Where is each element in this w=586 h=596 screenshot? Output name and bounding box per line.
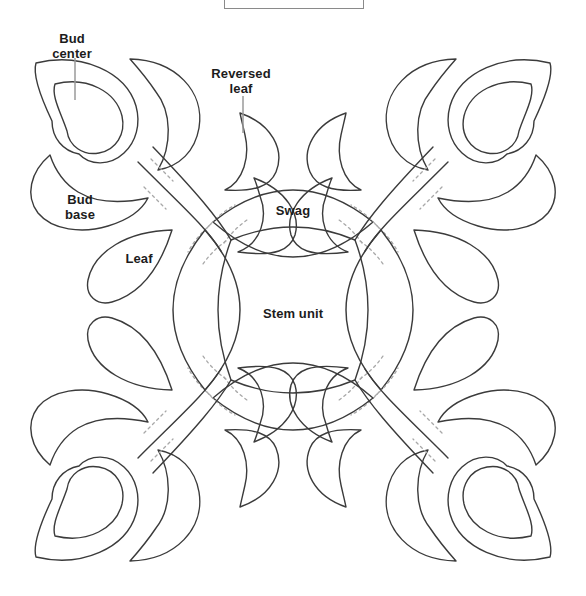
pattern-drawing bbox=[0, 0, 586, 596]
bud-base-label: Bud base bbox=[65, 192, 95, 222]
stem-unit-label: Stem unit bbox=[263, 306, 323, 321]
corner-motif-bottom-left bbox=[31, 317, 296, 561]
quilt-pattern-figure: Bud center Reversed leaf Bud base Leaf S… bbox=[0, 0, 586, 596]
bud-center-label-line2: center bbox=[52, 46, 92, 61]
leaf-label: Leaf bbox=[125, 251, 152, 266]
reversed-leaf-label-line2: leaf bbox=[211, 81, 270, 96]
bud-base-label-line2: base bbox=[65, 207, 95, 222]
reversed-leaf-label-line1: Reversed bbox=[211, 66, 270, 81]
reversed-leaf-label: Reversed leaf bbox=[211, 66, 270, 96]
bud-center-label: Bud center bbox=[52, 31, 92, 61]
corner-motif-top-right bbox=[290, 59, 555, 303]
bud-center-label-line1: Bud bbox=[52, 31, 92, 46]
bud-base-label-line1: Bud bbox=[65, 192, 95, 207]
corner-motif-bottom-right bbox=[290, 317, 555, 561]
swag-label: Swag bbox=[276, 203, 310, 218]
